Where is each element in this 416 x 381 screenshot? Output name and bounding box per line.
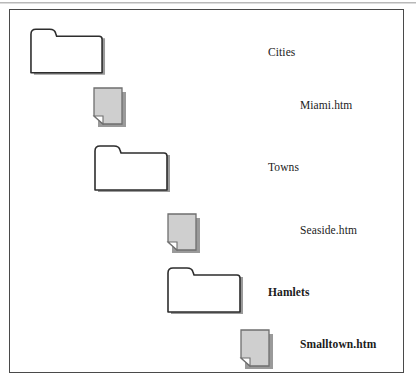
document-glyph — [91, 86, 129, 130]
top-scan-rule — [0, 2, 416, 3]
diagram-frame: Cities Miami.htm Towns Seaside.htm Hamle… — [9, 9, 404, 373]
folder-glyph — [28, 26, 108, 79]
folder-glyph — [92, 143, 173, 196]
tree-node-label: Smalltown.htm — [300, 338, 376, 350]
document-icon[interactable] — [91, 86, 129, 130]
folder-icon[interactable] — [92, 143, 173, 196]
folder-glyph — [165, 265, 246, 318]
tree-node-label: Hamlets — [268, 286, 310, 298]
tree-node-label: Seaside.htm — [300, 224, 357, 236]
document-glyph — [238, 328, 276, 372]
folder-icon[interactable] — [165, 265, 246, 318]
tree-canvas: Cities Miami.htm Towns Seaside.htm Hamle… — [10, 10, 403, 372]
tree-node-label: Towns — [268, 161, 299, 173]
tree-node-label: Cities — [268, 46, 295, 58]
folder-icon[interactable] — [28, 26, 108, 79]
document-icon[interactable] — [165, 212, 203, 256]
document-icon[interactable] — [238, 328, 276, 372]
document-glyph — [165, 212, 203, 256]
tree-node-label: Miami.htm — [300, 99, 352, 111]
